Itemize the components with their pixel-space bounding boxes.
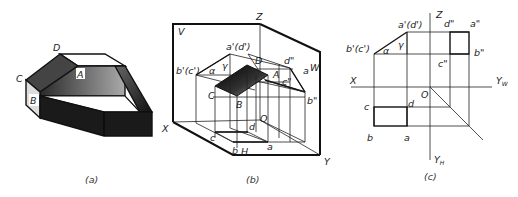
label-d-dprime: d" xyxy=(444,18,454,29)
label-Z: Z xyxy=(255,11,263,22)
label-A: A xyxy=(76,69,84,80)
label-c: c xyxy=(364,101,370,112)
caption-a: (a) xyxy=(85,174,98,185)
figure-c-orthographic-views: Z X YW YH O a'(d') b'(c') α γ d" a" b" c… xyxy=(346,9,509,182)
miter-line xyxy=(430,87,483,140)
caption-c: (c) xyxy=(424,171,437,182)
label-O: O xyxy=(421,89,429,100)
label-gamma: γ xyxy=(222,60,229,71)
label-B: B xyxy=(236,99,243,110)
label-W: W xyxy=(310,62,320,73)
label-a-prime-d-prime: a'(d') xyxy=(398,19,423,30)
label-D: D xyxy=(255,55,262,66)
label-D: D xyxy=(53,42,60,53)
label-b-dprime: b" xyxy=(474,47,484,58)
label-a: a xyxy=(267,141,273,152)
label-b-prime-c-prime: b'(c') xyxy=(346,43,370,54)
label-a-dprime: a" xyxy=(470,18,480,29)
label-V: V xyxy=(178,26,186,37)
label-b: b xyxy=(367,132,373,143)
label-a-prime-d-prime: a'(d') xyxy=(226,41,251,52)
label-C: C xyxy=(16,73,23,84)
label-B: B xyxy=(30,95,37,106)
label-Yh: YH xyxy=(434,154,445,166)
figure-b-three-plane-projection: Z V W X Y H O a'(d') b'(c') α γ D A C B … xyxy=(161,11,331,185)
label-A: A xyxy=(272,69,280,80)
label-C: C xyxy=(208,90,215,101)
side-view-rect xyxy=(450,32,469,54)
projection-diagram: D C A B (a) xyxy=(0,0,518,197)
label-c-dprime: c" xyxy=(438,58,448,69)
top-view-rect xyxy=(374,107,407,126)
label-c: c xyxy=(210,132,216,143)
label-X: X xyxy=(349,75,357,86)
label-gamma: γ xyxy=(398,39,405,50)
figure-a-isometric-solid: D C A B (a) xyxy=(16,42,152,185)
label-X: X xyxy=(161,123,169,134)
label-H: H xyxy=(241,146,248,157)
label-d: d xyxy=(408,98,415,109)
label-alpha: α xyxy=(383,45,390,56)
label-Y: Y xyxy=(324,156,331,167)
caption-b: (b) xyxy=(246,174,259,185)
label-alpha: α xyxy=(209,65,216,76)
label-b-prime-c-prime: b'(c') xyxy=(176,65,200,76)
label-a: a xyxy=(404,132,410,143)
label-b: b xyxy=(232,145,238,156)
label-c-dprime: c" xyxy=(282,76,292,87)
label-d-dprime: d" xyxy=(284,55,294,66)
label-Yw: YW xyxy=(496,75,509,87)
label-a-dprime: a xyxy=(303,65,309,76)
label-b-dprime: b" xyxy=(307,95,317,106)
label-d: d xyxy=(249,121,256,132)
label-Z: Z xyxy=(435,9,443,20)
label-O: O xyxy=(260,113,268,124)
